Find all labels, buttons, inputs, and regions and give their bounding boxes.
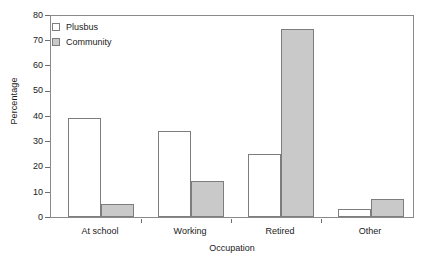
legend-item-plusbus[interactable]: Plusbus [52, 20, 112, 34]
legend-label-plusbus: Plusbus [66, 22, 98, 32]
y-tick-label-0: 0 [16, 213, 43, 222]
y-tick-label-80: 80 [16, 11, 43, 20]
plot-area: Plusbus Community [50, 15, 414, 218]
y-tick-label-40: 40 [16, 112, 43, 121]
bar-at-school-community[interactable] [101, 204, 134, 217]
legend-swatch-community-icon [52, 38, 60, 46]
bar-other-community[interactable] [371, 199, 404, 217]
bar-group-retired [248, 16, 314, 217]
legend-item-community[interactable]: Community [52, 35, 112, 49]
bar-working-plusbus[interactable] [158, 131, 191, 217]
bar-at-school-plusbus[interactable] [68, 118, 101, 217]
y-tick-label-60: 60 [16, 61, 43, 70]
y-tick-label-70: 70 [16, 36, 43, 45]
bar-retired-community[interactable] [281, 29, 314, 217]
legend-label-community: Community [66, 37, 112, 47]
y-tick-label-10: 10 [16, 188, 43, 197]
x-tick-label-other: Other [315, 226, 425, 236]
x-tick-mark-1 [141, 219, 142, 223]
bar-other-plusbus[interactable] [338, 209, 371, 217]
bar-group-other [338, 16, 404, 217]
y-tick-label-50: 50 [16, 86, 43, 95]
bar-group-working [158, 16, 224, 217]
bar-retired-plusbus[interactable] [248, 154, 281, 217]
x-axis-label: Occupation [50, 243, 414, 253]
legend: Plusbus Community [52, 20, 112, 50]
y-tick-label-20: 20 [16, 162, 43, 171]
bar-working-community[interactable] [191, 181, 224, 217]
legend-swatch-plusbus-icon [52, 23, 60, 31]
y-tick-label-30: 30 [16, 137, 43, 146]
bar-chart-figure: Percentage 80 70 60 50 40 30 20 10 0 [0, 0, 429, 265]
x-tick-mark-2 [231, 219, 232, 223]
y-axis-label: Percentage [9, 61, 19, 141]
x-tick-mark-3 [321, 219, 322, 223]
